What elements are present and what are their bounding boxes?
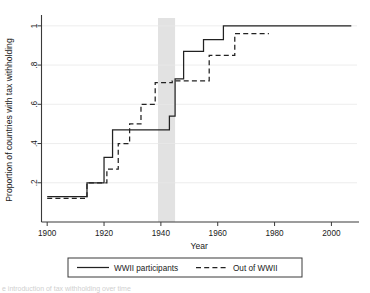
- y-tick-label: .8: [30, 61, 39, 68]
- chart-legend: WWII participantsOut of WWII: [68, 258, 302, 277]
- x-tick-label: 1940: [152, 229, 171, 238]
- line-chart-canvas: .2.4.6.81 190019201940196019802000 Propo…: [0, 0, 370, 293]
- x-axis-title: Year: [191, 241, 209, 251]
- x-tick-label: 1980: [265, 229, 284, 238]
- legend-label: WWII participants: [114, 264, 178, 273]
- x-tick-label: 1900: [38, 229, 57, 238]
- y-tick-label: 1: [30, 23, 39, 28]
- x-tick-label: 2000: [322, 229, 341, 238]
- chart-figure: .2.4.6.81 190019201940196019802000 Propo…: [0, 0, 370, 293]
- y-axis-title: Proportion of countries with tax withhol…: [4, 38, 14, 202]
- y-tick-label: .6: [30, 100, 39, 107]
- series-line-solid: [47, 26, 351, 197]
- legend-label: Out of WWII: [233, 264, 278, 273]
- y-axis: .2.4.6.81: [30, 15, 41, 222]
- x-tick-label: 1920: [95, 229, 114, 238]
- x-axis: 190019201940196019802000: [38, 222, 359, 238]
- y-tick-label: .2: [30, 179, 39, 186]
- x-tick-label: 1960: [209, 229, 228, 238]
- figure-caption: e introduction of tax withholding over t…: [0, 284, 370, 293]
- gridlines: [42, 26, 358, 183]
- y-tick-label: .4: [30, 140, 39, 147]
- y-axis-title-text: Proportion of countries with tax withhol…: [4, 38, 14, 202]
- data-series: [47, 26, 351, 199]
- x-axis-title-text: Year: [191, 241, 209, 251]
- wwii-shaded-band: [158, 18, 175, 222]
